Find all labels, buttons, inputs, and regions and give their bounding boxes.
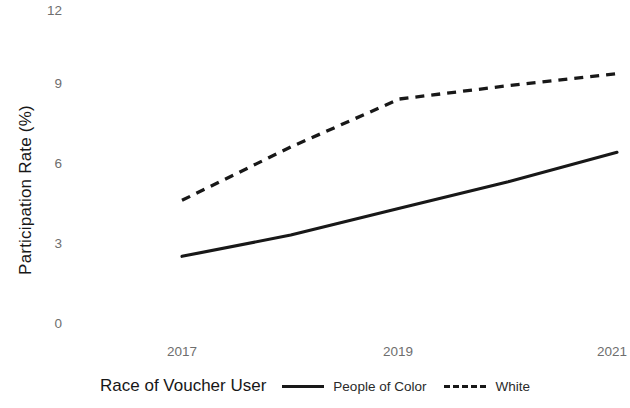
legend-label-white: White xyxy=(495,379,530,394)
legend-swatch-dashed-icon xyxy=(444,385,486,388)
legend-label-people-of-color: People of Color xyxy=(333,379,426,394)
line-chart-figure: Participation Rate (%) 12 9 6 3 0 2017 2… xyxy=(0,0,630,408)
legend-swatch-solid-icon xyxy=(282,385,324,388)
legend-entry-people-of-color[interactable]: People of Color xyxy=(282,379,426,394)
legend-title: Race of Voucher User xyxy=(100,376,266,396)
series-line-white xyxy=(182,74,617,201)
plot-area xyxy=(0,0,630,408)
legend-entry-white[interactable]: White xyxy=(444,379,530,394)
chart-legend: Race of Voucher User People of Color Whi… xyxy=(0,376,630,396)
